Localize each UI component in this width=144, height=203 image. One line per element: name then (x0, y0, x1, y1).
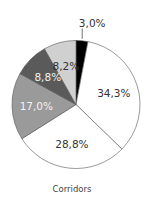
slice-label: 17,0% (20, 100, 53, 112)
slice-label: 28,8% (55, 138, 88, 150)
slice-label: 8,8% (34, 71, 61, 83)
slice-label: 3,0% (79, 17, 106, 29)
slice-label: 8,2% (53, 60, 80, 72)
slice-label: 34,3% (97, 87, 130, 99)
chart-caption: Corridors (0, 184, 144, 194)
